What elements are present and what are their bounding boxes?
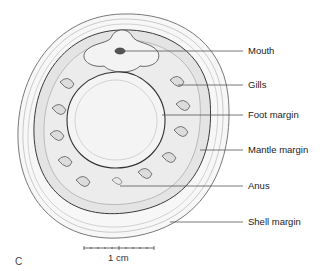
- label-shell-margin: Shell margin: [248, 217, 301, 227]
- label-gills: Gills: [248, 80, 266, 90]
- label-mouth: Mouth: [248, 46, 274, 56]
- scale-bar-label: 1 cm: [108, 252, 129, 263]
- foot: [67, 72, 165, 168]
- scale-bar: [84, 246, 154, 250]
- chiton-diagram: [0, 0, 320, 271]
- label-mantle-margin: Mantle margin: [248, 145, 308, 155]
- panel-label: C: [15, 256, 22, 267]
- label-foot-margin: Foot margin: [248, 110, 299, 120]
- label-anus: Anus: [248, 181, 270, 191]
